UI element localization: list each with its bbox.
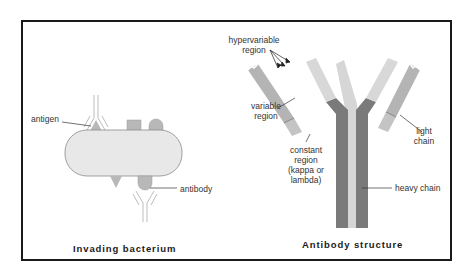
invading-bacterium-caption: Invading bacterium — [73, 243, 176, 254]
heavy-chain-left-variable — [306, 58, 336, 102]
heavy-chain-label: heavy chain — [395, 183, 440, 193]
variable-region-label: variable region — [246, 101, 286, 121]
heavy-chain-right-constant — [356, 98, 376, 228]
bacterium-panel — [62, 95, 182, 222]
heavy-chain-right-variable — [366, 58, 398, 102]
constant-region-leader-line — [306, 134, 310, 142]
bottom-antibody-icon — [133, 191, 157, 222]
bacterium-body — [65, 130, 182, 176]
antigen-dome-bottom — [138, 176, 152, 190]
constant-region-label: constant region (kappa or lambda) — [282, 145, 330, 185]
antigen-label: antigen — [31, 114, 59, 124]
antibody-structure-panel — [248, 50, 422, 228]
light-chain-label: light chain — [410, 126, 438, 146]
antibody-structure-caption: Antibody structure — [302, 239, 403, 250]
hypervariable-region-label: hypervariable region — [218, 35, 290, 55]
antigen-triangle-bottom — [110, 176, 122, 188]
antibody-label: antibody — [180, 184, 212, 194]
